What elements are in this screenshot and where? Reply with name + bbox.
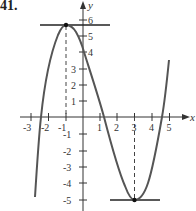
y-axis-label: y [87,0,93,11]
y-tick-label: -5 [63,195,71,206]
x-tick-label: 1 [97,122,102,133]
y-tick-label: 2 [71,80,76,91]
y-axis: y 1 2 3 4 5 6 -1 -2 -3 -4 -5 [63,0,93,211]
x-tick-label: -3 [23,122,31,133]
y-tick-label: -3 [63,162,71,173]
x-tick-label: 4 [149,122,154,133]
y-tick-label: -4 [63,178,71,189]
x-axis-arrow-icon [182,114,190,120]
cubic-curve [35,25,169,200]
y-axis-arrow-icon [80,1,86,9]
x-tick-label: -2 [41,122,49,133]
local-min-point [132,198,136,202]
y-tick-label: 5 [88,31,93,42]
x-axis-label: x [189,111,195,123]
y-tick-label: -2 [63,146,71,157]
x-tick-label: 2 [114,122,119,133]
y-tick-label: 3 [71,64,76,75]
local-max-point [64,23,68,27]
y-tick-label: 4 [88,47,93,58]
x-tick-label: 5 [167,122,172,133]
y-tick-label: -1 [63,129,71,140]
y-tick-label: 1 [71,96,76,107]
graph: x -3 -2 -1 1 2 3 4 5 y [0,0,196,211]
